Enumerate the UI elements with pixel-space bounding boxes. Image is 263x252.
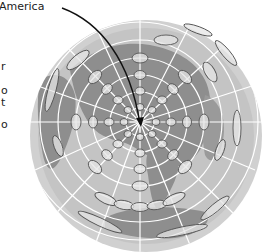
projection-map	[0, 0, 263, 252]
